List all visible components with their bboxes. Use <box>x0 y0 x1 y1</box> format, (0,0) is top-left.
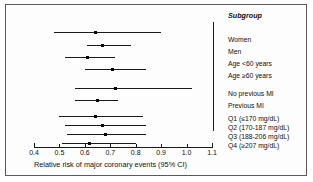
x-axis-tick <box>136 144 137 147</box>
point-estimate-marker <box>88 142 91 145</box>
ci-line <box>85 69 146 70</box>
point-estimate-marker <box>96 99 99 102</box>
x-axis-label: Relative risk of major coronary events (… <box>34 160 187 169</box>
subgroup-label: Men <box>228 48 241 55</box>
plot-area: Subgroup WomenMenAge <60 yearsAge ≥60 ye… <box>0 0 313 182</box>
ci-line <box>87 45 130 46</box>
ci-line <box>65 125 146 126</box>
ci-line <box>54 32 161 33</box>
ci-line <box>65 57 116 58</box>
point-estimate-marker <box>114 87 117 90</box>
x-axis-tick-label: 0.6 <box>73 149 97 156</box>
reference-line-1 <box>213 22 214 131</box>
x-axis-tick <box>187 144 188 147</box>
x-axis-tick <box>212 144 213 147</box>
ci-line <box>59 116 143 117</box>
x-axis-tick-label: 0.9 <box>149 149 173 156</box>
x-axis-tick-label: 0.4 <box>22 149 46 156</box>
subgroup-label: Women <box>228 36 251 43</box>
x-axis-line <box>34 147 213 148</box>
point-estimate-marker <box>104 133 107 136</box>
x-axis-tick-label: 1.0 <box>175 149 199 156</box>
subgroup-label: Q4 (≥207 mg/dL) <box>228 142 279 149</box>
ci-line <box>62 143 136 144</box>
subgroup-column-header: Subgroup <box>228 11 262 20</box>
x-axis-tick <box>85 144 86 147</box>
x-axis-tick <box>34 144 35 147</box>
subgroup-label: Age <60 years <box>228 60 272 67</box>
point-estimate-marker <box>86 56 89 59</box>
x-axis-tick-label: 0.7 <box>98 149 122 156</box>
x-axis-tick-label: 1.1 <box>200 149 224 156</box>
x-axis-tick <box>161 144 162 147</box>
x-axis-tick-label: 0.5 <box>47 149 71 156</box>
point-estimate-marker <box>101 124 104 127</box>
forest-plot-figure: Subgroup WomenMenAge <60 yearsAge ≥60 ye… <box>0 0 313 182</box>
point-estimate-marker <box>101 44 104 47</box>
x-axis-tick <box>110 144 111 147</box>
subgroup-label: Q3 (188-206 mg/dL) <box>228 133 289 140</box>
point-estimate-marker <box>94 31 97 34</box>
subgroup-label: Previous MI <box>228 102 264 109</box>
point-estimate-marker <box>111 68 114 71</box>
x-axis-tick-label: 0.8 <box>124 149 148 156</box>
subgroup-label: Q1 (≤170 mg/dL) <box>228 115 279 122</box>
point-estimate-marker <box>94 115 97 118</box>
ci-line <box>75 88 192 89</box>
subgroup-label: No previous MI <box>228 90 274 97</box>
subgroup-label: Q2 (170-187 mg/dL) <box>228 124 289 131</box>
x-axis-tick <box>59 144 60 147</box>
subgroup-label: Age ≥60 years <box>228 72 272 79</box>
